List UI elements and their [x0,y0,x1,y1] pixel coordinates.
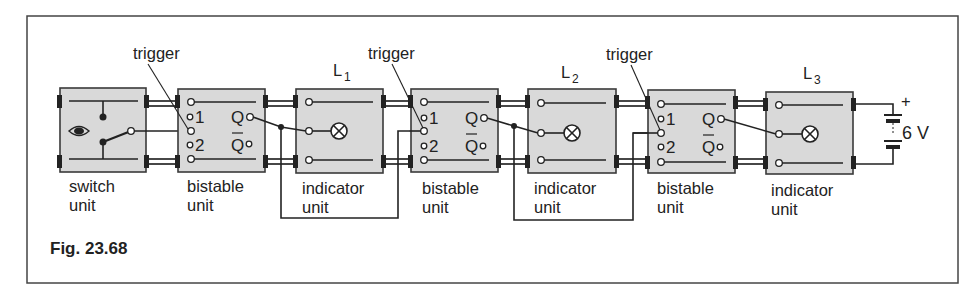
circuit-diagram: 1 2 Q Q trigger L 1 [0,0,973,305]
bistable-label-2: bistable [422,179,479,197]
output-q-label: Q [231,108,244,127]
switch-unit [57,88,149,172]
lamp-subscript-2: 2 [572,72,579,86]
pin-1-label: 1 [429,109,438,128]
battery-6v [856,104,902,164]
indicator-label-2: indicator [534,179,597,197]
pin-2-label: 2 [666,138,675,157]
bistable-unit-2: 1 2 Q Q [408,89,501,172]
output-q-label: Q [702,110,715,129]
output-qbar-label: Q [702,138,715,157]
lamp-icon [331,123,347,139]
pin-2-label: 2 [429,137,438,156]
indicator-label-3: indicator [771,181,834,199]
bistable-label-1b: unit [187,196,214,214]
lamp-label-2: L [561,63,570,81]
voltage-label: 6 V [902,123,929,143]
lamp-subscript-1: 1 [344,70,351,84]
indicator-label-1b: unit [302,198,329,216]
lamp-subscript-3: 3 [814,73,821,87]
switch-unit-label-2: unit [69,196,96,214]
indicator-unit-2 [525,89,619,173]
positive-terminal-label: + [901,92,911,110]
bistable-label-2b: unit [422,198,449,216]
bistable-label-1: bistable [187,177,244,195]
pin-1-label: 1 [666,110,675,129]
indicator-unit-3 [763,92,856,174]
trigger-label-2: trigger [368,44,415,62]
output-qbar-label: Q [231,136,244,155]
indicator-label-3b: unit [771,200,798,218]
bistable-label-3: bistable [657,179,714,197]
output-qbar-label: Q [465,137,478,156]
lamp-icon [564,125,580,141]
indicator-unit-1 [293,89,386,173]
lamp-icon [802,126,818,142]
bistable-unit-3: 1 2 Q Q [645,90,738,173]
lamp-label-1: L [333,61,342,79]
trigger-label-3: trigger [606,45,653,63]
lamp-label-3: L [803,64,812,82]
unit-labels: switch unit bistable unit indicator unit… [69,177,834,218]
pin-1-label: 1 [195,108,204,127]
trigger-label-1: trigger [133,44,180,62]
figure-caption: Fig. 23.68 [50,239,127,258]
indicator-label-1: indicator [302,179,365,197]
output-q-label: Q [465,109,478,128]
switch-unit-label: switch [69,177,115,195]
indicator-label-2b: unit [534,198,561,216]
pin-2-label: 2 [195,136,204,155]
bistable-label-3b: unit [657,198,684,216]
bistable-unit-1: 1 2 Q Q [175,89,268,172]
